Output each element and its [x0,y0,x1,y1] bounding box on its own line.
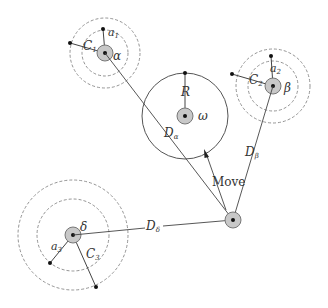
c1-label: C1 [83,39,97,54]
robot-node [225,212,241,228]
c3-label: C3 [86,247,100,262]
beta-label: β [283,81,291,95]
d-delta-label: Dδ [145,219,160,234]
delta-label: δ [80,220,87,234]
beta-node [230,49,310,123]
a2-label: a2 [270,62,282,76]
alpha-node [68,18,140,88]
omega-label: ω [198,109,208,123]
d-alpha-label: Dα [163,126,179,141]
radius-label: R [180,85,190,99]
a1-label: a1 [108,26,119,40]
a3-label: a3 [51,240,63,254]
alpha-label: α [113,49,121,63]
c2-label: C2 [249,73,263,88]
edges [73,53,273,235]
move-label: Move [212,175,245,189]
d-beta-label: Dβ [244,145,259,160]
diagram-canvas: α a1 C1 β a2 C2 δ a3 C3 ω R Dα Dβ Dδ Mov… [0,0,328,308]
